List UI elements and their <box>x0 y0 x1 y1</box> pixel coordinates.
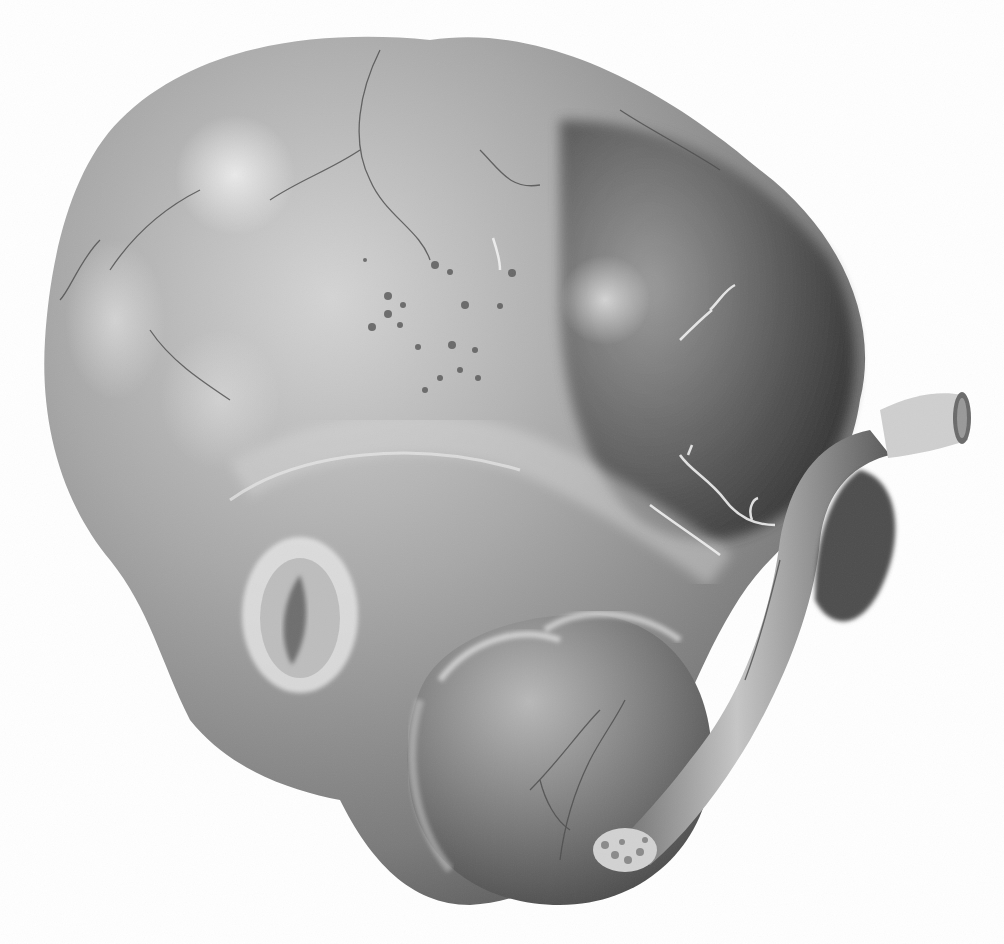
illustration-canvas <box>0 0 1004 944</box>
paper-grain-overlay <box>0 0 1004 944</box>
anatomical-illustration <box>0 0 1004 944</box>
